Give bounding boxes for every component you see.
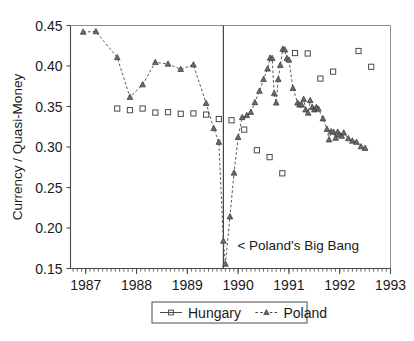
data-point-marker: [267, 155, 272, 160]
x-tick-label: 1989: [172, 277, 203, 293]
data-point-marker: [275, 76, 281, 81]
data-point-marker: [191, 62, 197, 67]
series-hungary: [115, 48, 374, 176]
data-point-marker: [261, 76, 267, 81]
data-point-marker: [140, 82, 146, 87]
data-point-marker: [292, 50, 297, 55]
data-point-marker: [216, 116, 221, 121]
data-point-marker: [191, 111, 196, 116]
data-point-marker: [290, 85, 296, 90]
series-poland: [80, 28, 368, 266]
annotation-layer: < Poland's Big Bang: [237, 238, 359, 253]
data-point-marker: [127, 94, 133, 99]
data-point-marker: [152, 59, 158, 64]
data-point-marker: [271, 90, 277, 95]
data-point-marker: [331, 69, 336, 74]
x-tick-label: 1992: [324, 277, 355, 293]
x-tick-label: 1987: [70, 277, 101, 293]
data-point-marker: [221, 238, 227, 243]
data-point-marker: [242, 127, 247, 132]
chart-screenshot: 0.150.200.250.300.350.400.45198719881989…: [0, 0, 414, 341]
y-tick-label: 0.45: [35, 18, 62, 34]
x-tick-label: 1993: [375, 277, 406, 293]
data-series: [80, 28, 373, 266]
data-point-marker: [301, 96, 307, 101]
data-point-marker: [326, 137, 332, 142]
y-tick-label: 0.30: [35, 139, 62, 155]
data-point-marker: [229, 118, 234, 123]
data-point-marker: [165, 110, 170, 115]
data-point-marker: [204, 112, 209, 117]
data-point-marker: [257, 88, 263, 93]
y-axis-title: Currency / Quasi-Money: [10, 74, 25, 221]
data-point-marker: [248, 109, 254, 114]
data-point-marker: [211, 125, 217, 130]
data-point-marker: [178, 111, 183, 116]
legend-label: Hungary: [188, 305, 241, 321]
data-point-marker: [203, 100, 209, 105]
plot-frame: [71, 26, 391, 269]
legend-label: Poland: [283, 305, 327, 321]
annotation-polands-big-bang: < Poland's Big Bang: [237, 238, 359, 253]
currency-quasi-money-chart: 0.150.200.250.300.350.400.45198719881989…: [0, 0, 414, 341]
data-point-marker: [231, 170, 237, 175]
y-tick-label: 0.35: [35, 99, 62, 115]
y-axis-label: Currency / Quasi-Money: [10, 74, 25, 221]
y-tick-label: 0.15: [35, 261, 62, 277]
x-tick-label: 1991: [273, 277, 304, 293]
data-point-marker: [140, 106, 145, 111]
data-point-marker: [227, 214, 233, 219]
chart-legend: HungaryPoland: [152, 302, 327, 323]
data-point-marker: [115, 106, 120, 111]
data-point-marker: [254, 148, 259, 153]
data-point-marker: [235, 134, 241, 139]
y-tick-label: 0.20: [35, 220, 62, 236]
data-point-marker: [307, 97, 313, 102]
data-point-marker: [280, 171, 285, 176]
data-point-marker: [127, 108, 132, 113]
x-tick-label: 1988: [121, 277, 152, 293]
data-point-marker: [165, 61, 171, 66]
data-point-marker: [318, 76, 323, 81]
y-tick-label: 0.40: [35, 58, 62, 74]
data-point-marker: [273, 100, 279, 105]
y-tick-label: 0.25: [35, 180, 62, 196]
data-point-marker: [369, 64, 374, 69]
data-point-marker: [153, 110, 158, 115]
data-point-marker: [356, 48, 361, 53]
data-point-marker: [265, 66, 271, 71]
data-point-marker: [320, 116, 326, 121]
x-tick-label: 1990: [223, 277, 254, 293]
data-point-marker: [324, 126, 330, 131]
data-point-marker: [252, 99, 258, 104]
data-point-marker: [277, 62, 283, 67]
axis-ticks: [67, 26, 391, 275]
data-point-marker: [305, 51, 310, 56]
data-point-marker: [216, 139, 222, 144]
